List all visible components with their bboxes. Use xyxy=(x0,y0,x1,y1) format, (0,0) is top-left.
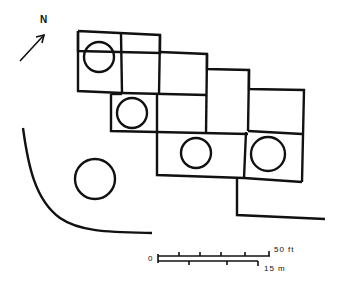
room-block xyxy=(78,31,325,219)
circular-feature xyxy=(117,98,147,128)
circular-feature xyxy=(181,138,211,168)
north-arrow-icon xyxy=(20,35,44,61)
circular-feature xyxy=(84,42,114,72)
curved-wall xyxy=(23,128,152,233)
scale-bar xyxy=(158,251,270,266)
scale-zero-label: 0 xyxy=(148,254,153,263)
circular-feature xyxy=(251,137,285,171)
scale-meters-label: 15 m xyxy=(264,264,286,273)
circular-feature xyxy=(75,159,115,199)
scale-feet-label: 50 ft xyxy=(274,245,295,254)
